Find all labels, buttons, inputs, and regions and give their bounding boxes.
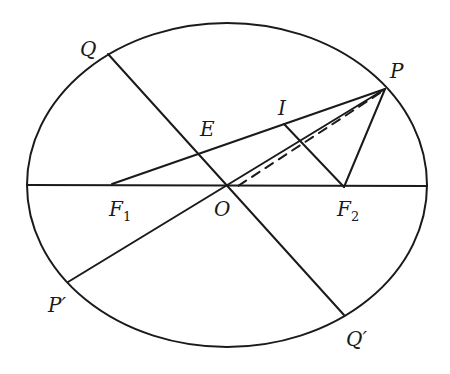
segment-IF2 <box>284 124 344 187</box>
label-Qp: Q′ <box>346 327 367 351</box>
label-Q: Q <box>80 37 96 61</box>
label-Pp: P′ <box>47 293 66 317</box>
label-F2: F2 <box>336 197 359 224</box>
ellipse-diagram: P Q E I O F1 F2 P′ Q′ <box>0 0 450 374</box>
label-E: E <box>199 117 215 141</box>
dashed-line <box>238 93 380 186</box>
label-I: I <box>277 96 287 120</box>
label-F1: F1 <box>108 197 131 224</box>
label-O: O <box>214 197 230 221</box>
label-P: P <box>389 59 404 83</box>
